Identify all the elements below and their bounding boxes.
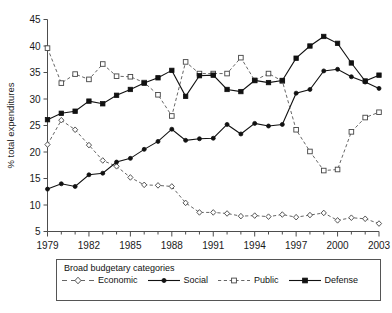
legend-swatch-social bbox=[147, 275, 181, 286]
data-point bbox=[128, 87, 132, 91]
data-point bbox=[170, 127, 174, 131]
svg-text:2003: 2003 bbox=[368, 240, 391, 251]
data-point bbox=[308, 87, 312, 91]
data-point bbox=[349, 215, 354, 221]
svg-text:1982: 1982 bbox=[78, 240, 101, 251]
svg-text:35: 35 bbox=[29, 67, 41, 78]
data-point bbox=[294, 56, 298, 60]
data-point bbox=[87, 173, 91, 177]
chart-axes bbox=[48, 20, 380, 232]
data-point bbox=[87, 99, 91, 103]
legend-title: Broad budgetary categories bbox=[57, 260, 380, 275]
data-point bbox=[322, 34, 326, 38]
legend-label-economic: Economic bbox=[98, 275, 138, 286]
data-point bbox=[115, 160, 119, 164]
data-point bbox=[377, 110, 382, 115]
svg-text:1988: 1988 bbox=[161, 240, 184, 251]
data-point bbox=[46, 187, 50, 191]
legend-items-row: Economic Social Public bbox=[57, 275, 380, 288]
data-point bbox=[363, 115, 368, 120]
data-point bbox=[100, 62, 105, 67]
legend-item-economic[interactable]: Economic bbox=[61, 275, 147, 286]
data-point bbox=[336, 67, 340, 71]
data-point bbox=[322, 69, 326, 73]
chart-series-group bbox=[45, 34, 382, 226]
legend-label-social: Social bbox=[184, 275, 209, 286]
svg-text:10: 10 bbox=[29, 200, 41, 211]
legend-item-public[interactable]: Public bbox=[217, 275, 288, 286]
series-defense bbox=[45, 34, 381, 122]
data-point bbox=[294, 91, 298, 95]
legend-swatch-public bbox=[217, 275, 251, 286]
data-point bbox=[252, 213, 257, 219]
data-point bbox=[349, 61, 353, 65]
legend-swatch-economic bbox=[61, 275, 95, 286]
data-point bbox=[197, 137, 201, 141]
data-point bbox=[142, 147, 146, 151]
data-point bbox=[156, 92, 161, 97]
data-point bbox=[128, 175, 133, 181]
data-point bbox=[377, 73, 381, 77]
data-point bbox=[225, 71, 230, 76]
svg-text:5: 5 bbox=[35, 226, 41, 237]
data-point bbox=[335, 218, 340, 224]
svg-text:1979: 1979 bbox=[36, 240, 59, 251]
data-point bbox=[225, 122, 229, 126]
data-point bbox=[142, 182, 147, 188]
data-point bbox=[170, 114, 175, 119]
data-point bbox=[211, 73, 215, 77]
data-point bbox=[128, 156, 132, 160]
svg-text:1994: 1994 bbox=[244, 240, 267, 251]
data-point bbox=[349, 130, 354, 135]
chart-figure: 45403530252015105 1979198219851988199119… bbox=[0, 0, 392, 313]
data-point bbox=[142, 81, 146, 85]
svg-text:30: 30 bbox=[29, 94, 41, 105]
data-point bbox=[211, 210, 216, 216]
data-point bbox=[253, 121, 257, 125]
legend-label-defense: Defense bbox=[325, 275, 359, 286]
data-point bbox=[266, 214, 271, 220]
data-point bbox=[280, 212, 285, 218]
data-point bbox=[114, 74, 119, 79]
legend-swatch-defense bbox=[288, 275, 322, 286]
data-point bbox=[197, 73, 201, 77]
svg-text:40: 40 bbox=[29, 41, 41, 52]
data-point bbox=[155, 183, 160, 189]
data-point bbox=[308, 44, 312, 48]
data-point bbox=[225, 87, 229, 91]
data-point bbox=[128, 74, 133, 79]
data-point bbox=[197, 210, 202, 216]
svg-text:20: 20 bbox=[29, 147, 41, 158]
data-point bbox=[211, 136, 215, 140]
svg-text:25: 25 bbox=[29, 120, 41, 131]
data-point bbox=[308, 149, 313, 154]
data-point bbox=[280, 122, 284, 126]
data-point bbox=[335, 167, 340, 172]
svg-text:15: 15 bbox=[29, 173, 41, 184]
legend-item-social[interactable]: Social bbox=[147, 275, 218, 286]
data-point bbox=[59, 111, 63, 115]
data-point bbox=[183, 60, 188, 65]
svg-text:1991: 1991 bbox=[202, 240, 225, 251]
data-point bbox=[45, 117, 49, 121]
data-point bbox=[294, 127, 299, 132]
data-point bbox=[239, 89, 243, 93]
data-point bbox=[376, 221, 381, 227]
data-point bbox=[170, 68, 174, 72]
series-public bbox=[45, 46, 381, 173]
data-point bbox=[349, 75, 353, 79]
data-point bbox=[266, 71, 271, 76]
data-point bbox=[156, 76, 160, 80]
x-axis-ticks: 197919821985198819911994199720002003 bbox=[36, 232, 390, 251]
svg-text:2000: 2000 bbox=[326, 240, 349, 251]
legend-item-defense[interactable]: Defense bbox=[288, 275, 368, 286]
svg-text:1985: 1985 bbox=[119, 240, 142, 251]
data-point bbox=[280, 78, 284, 82]
data-point bbox=[156, 139, 160, 143]
y-axis-title: % total expenditures bbox=[5, 82, 16, 168]
data-point bbox=[101, 171, 105, 175]
data-point bbox=[73, 109, 77, 113]
data-point bbox=[377, 86, 381, 90]
svg-text:45: 45 bbox=[29, 14, 41, 25]
data-point bbox=[101, 102, 105, 106]
